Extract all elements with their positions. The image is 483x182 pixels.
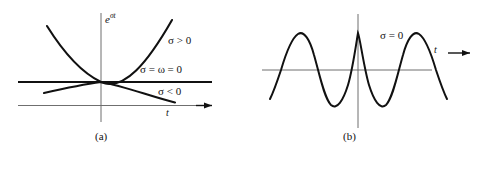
panel-a-t-axis-arrowhead xyxy=(204,102,212,108)
panel-a-curve-decaying xyxy=(44,82,175,103)
panel-b-caption: (b) xyxy=(343,131,356,142)
panel-a-label-sigma-negative: σ < 0 xyxy=(158,86,181,97)
panel-a-plot xyxy=(0,0,242,182)
panel-a-t-label: t xyxy=(166,108,169,118)
panel-a-caption: (a) xyxy=(95,131,107,142)
panel-a-y-axis-label: eσt xyxy=(105,12,116,25)
panel-b-plot xyxy=(242,0,483,182)
panel-a-label-sigma-omega-zero: σ = ω = 0 xyxy=(140,64,182,75)
panel-b-t-arrowhead xyxy=(462,50,470,56)
figure-container: eσt σ > 0 σ = ω = 0 σ < 0 t (a) σ = 0 t … xyxy=(0,0,483,182)
panel-b: σ = 0 t (b) xyxy=(242,0,483,182)
panel-b-t-label: t xyxy=(434,45,437,55)
panel-b-label-sigma-zero: σ = 0 xyxy=(380,30,403,41)
panel-a: eσt σ > 0 σ = ω = 0 σ < 0 t (a) xyxy=(0,0,242,182)
panel-a-label-sigma-positive: σ > 0 xyxy=(168,35,191,46)
panel-a-y-axis-label-exponent: σt xyxy=(110,11,116,20)
